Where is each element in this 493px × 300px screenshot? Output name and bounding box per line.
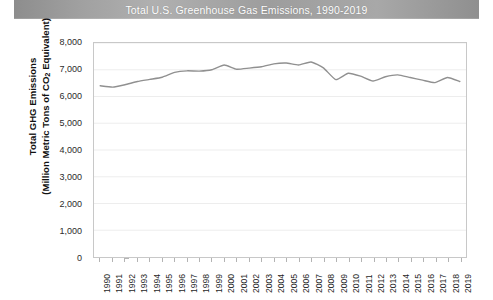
x-tick-mark [236, 258, 237, 262]
x-tick-label: 1995 [165, 274, 174, 293]
x-tick-mark [311, 258, 312, 262]
y-axis-title: Total GHG Emissions (Million Metric Tons… [26, 3, 55, 209]
x-tick-mark [112, 258, 113, 262]
x-tick-label: 1991 [115, 274, 124, 293]
x-tick-label: 2001 [240, 274, 249, 293]
x-tick-mark [349, 258, 350, 262]
x-tick-mark [249, 258, 250, 262]
x-tick-label: 2018 [452, 274, 461, 293]
x-tick-label: 2000 [227, 274, 236, 293]
x-tick-label: 2008 [327, 274, 336, 293]
x-tick-mark [149, 258, 150, 262]
x-tick-label: 2016 [427, 274, 436, 293]
x-tick-mark [99, 258, 100, 262]
x-tick-mark [286, 258, 287, 262]
chart-figure: Total U.S. Greenhouse Gas Emissions, 199… [0, 0, 493, 300]
x-tick-mark [274, 258, 275, 262]
chart-title: Total U.S. Greenhouse Gas Emissions, 199… [125, 4, 367, 16]
x-tick-label: 2009 [340, 274, 349, 293]
x-axis: 1990199119921993199419951996199719981999… [0, 264, 493, 298]
x-tick-label: 2003 [265, 274, 274, 293]
emissions-line [100, 62, 460, 87]
x-tick-label: 1998 [202, 274, 211, 293]
x-tick-mark [199, 258, 200, 262]
x-tick-mark [386, 258, 387, 262]
gridlines [94, 43, 466, 230]
x-tick-label: 2013 [389, 274, 398, 293]
x-tick-mark [336, 258, 337, 262]
x-tick-label: 2007 [315, 274, 324, 293]
x-tick-label: 2012 [377, 274, 386, 293]
plot-area [93, 42, 467, 258]
x-tick-mark [398, 258, 399, 262]
x-tick-label: 1999 [215, 274, 224, 293]
x-tick-mark [187, 258, 188, 262]
x-tick-label: 2015 [414, 274, 423, 293]
x-tick-label: 1997 [190, 274, 199, 293]
x-tick-label: 2010 [352, 274, 361, 293]
y-axis-title-line1: Total GHG Emissions [27, 58, 38, 155]
x-tick-mark [324, 258, 325, 262]
x-tick-label: 2002 [252, 274, 261, 293]
x-tick-label: 2005 [290, 274, 299, 293]
x-tick-label: 1996 [178, 274, 187, 293]
x-tick-label: 2017 [439, 274, 448, 293]
x-tick-mark [448, 258, 449, 262]
x-tick-mark [137, 258, 138, 262]
x-tick-label: 1990 [103, 274, 112, 293]
x-tick-mark [361, 258, 362, 262]
x-tick-mark [162, 258, 163, 262]
y-axis-title-line2-post: Equivalent) [40, 18, 51, 72]
plot-svg [94, 43, 466, 257]
x-tick-mark [461, 258, 462, 262]
chart-title-banner: Total U.S. Greenhouse Gas Emissions, 199… [14, 0, 479, 19]
x-tick-mark [436, 258, 437, 262]
x-tick-mark [224, 258, 225, 262]
x-tick-mark [299, 258, 300, 262]
x-tick-label: 2004 [277, 274, 286, 293]
x-tick-mark [174, 258, 175, 262]
x-tick-mark [261, 258, 262, 262]
x-tick-mark [411, 258, 412, 262]
y-tick-label: 1,000 [36, 226, 82, 236]
x-tick-label: 2011 [365, 275, 374, 293]
y-axis-title-subscript: 2 [43, 72, 52, 76]
x-tick-label: 1992 [128, 274, 137, 293]
x-tick-label: 2019 [464, 274, 473, 293]
x-tick-label: 1994 [153, 274, 162, 293]
x-tick-label: 2006 [302, 274, 311, 293]
x-tick-label: 2014 [402, 274, 411, 293]
x-tick-mark [374, 258, 375, 262]
y-axis-title-line2-pre: (Million Metric Tons of CO [40, 77, 51, 195]
x-tick-mark [124, 258, 125, 262]
x-tick-mark [211, 258, 212, 262]
x-tick-mark [423, 258, 424, 262]
x-tick-label: 1993 [140, 274, 149, 293]
